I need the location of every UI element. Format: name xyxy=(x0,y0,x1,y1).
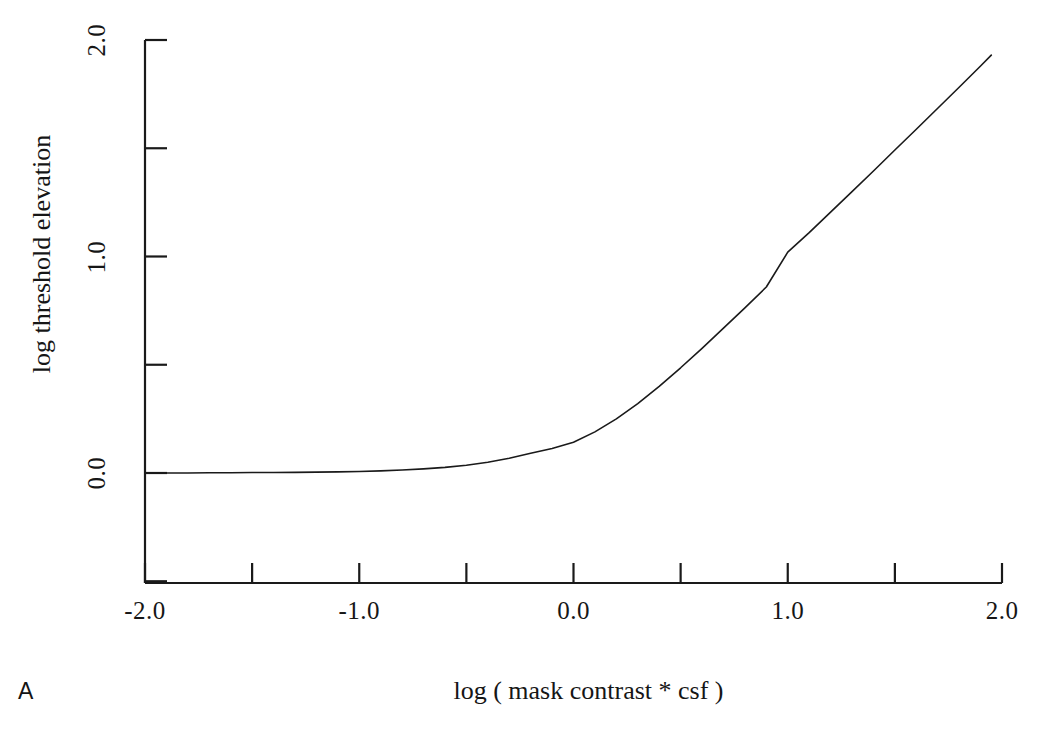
y-tick-label: 1.0 xyxy=(83,240,111,273)
x-tick-label: -2.0 xyxy=(124,597,166,625)
panel-label: A xyxy=(18,678,33,705)
y-tick-label: 2.0 xyxy=(83,24,111,57)
axis-lines xyxy=(145,40,1002,583)
x-axis-ticks xyxy=(145,563,1002,583)
x-tick-label: 2.0 xyxy=(986,597,1019,625)
y-tick-label: 0.0 xyxy=(83,457,111,490)
data-line-threshold-elevation xyxy=(145,55,991,473)
x-axis-title: log ( mask contrast * csf ) xyxy=(453,676,723,706)
y-axis-ticks xyxy=(145,40,167,581)
data-series-layer xyxy=(145,55,991,473)
x-tick-label: 1.0 xyxy=(771,597,804,625)
y-axis-title: log threshold elevation xyxy=(27,134,57,372)
figure-panel-a: -2.0-1.00.01.02.0 0.01.02.0 log threshol… xyxy=(0,0,1053,738)
x-tick-label: -1.0 xyxy=(338,597,380,625)
x-tick-label: 0.0 xyxy=(557,597,590,625)
plot-canvas xyxy=(0,0,1053,738)
